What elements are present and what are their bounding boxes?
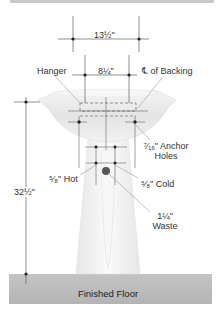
sink-basin	[38, 91, 176, 142]
label-finished-floor: Finished Floor	[0, 288, 216, 299]
cold-supply	[114, 162, 117, 165]
label-hanger: Hanger	[37, 66, 67, 76]
centerline-icon: ℄	[142, 66, 148, 76]
label-cold: ⁵⁄₈" Cold	[141, 179, 174, 189]
label-anchor-holes: ⁷⁄₁₆" AnchorHoles	[140, 141, 192, 161]
hot-supply	[95, 162, 98, 165]
anchor-hole-left	[77, 120, 80, 123]
label-waste: 1¼"Waste	[150, 211, 180, 231]
anchor-hole-right	[133, 120, 136, 123]
dim-rim-height: 32½"	[14, 187, 35, 197]
label-centerline: ℄ of Backing	[142, 66, 193, 76]
dim-hanger-spacing: 8¼"	[98, 66, 114, 76]
label-hot: ⁵⁄₈" Hot	[49, 174, 78, 184]
dim-anchor-spacing: 13½"	[94, 30, 115, 40]
